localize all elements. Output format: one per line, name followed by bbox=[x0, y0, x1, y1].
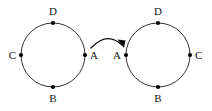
right-node-a-dot bbox=[124, 53, 128, 57]
right-node-b-label: B bbox=[154, 92, 161, 104]
right-node-d-dot bbox=[156, 21, 160, 25]
left-node-b-dot bbox=[51, 85, 55, 89]
right-node-d-label: D bbox=[154, 5, 162, 17]
right-node-b-dot bbox=[156, 85, 160, 89]
figure-canvas: D A B C D C B A bbox=[0, 0, 212, 111]
left-node-c-label: C bbox=[9, 49, 16, 61]
left-circle-outline bbox=[21, 23, 85, 87]
mapping-arrow-curve bbox=[91, 39, 122, 48]
cycle-diagram: D A B C D C B A bbox=[0, 0, 212, 111]
left-node-b-label: B bbox=[49, 92, 56, 104]
right-circle-outline bbox=[126, 23, 190, 87]
left-circle-group: D A B C bbox=[9, 5, 98, 104]
left-node-a-label: A bbox=[90, 49, 98, 61]
left-node-a-dot bbox=[83, 53, 87, 57]
left-node-c-dot bbox=[19, 53, 23, 57]
left-node-d-label: D bbox=[49, 5, 57, 17]
mapping-arrow-head bbox=[118, 40, 126, 49]
right-circle-group: D C B A bbox=[113, 5, 202, 104]
right-node-c-label: C bbox=[195, 49, 202, 61]
mapping-arrow-group bbox=[91, 39, 126, 48]
right-node-c-dot bbox=[188, 53, 192, 57]
right-node-a-label: A bbox=[113, 49, 121, 61]
left-node-d-dot bbox=[51, 21, 55, 25]
